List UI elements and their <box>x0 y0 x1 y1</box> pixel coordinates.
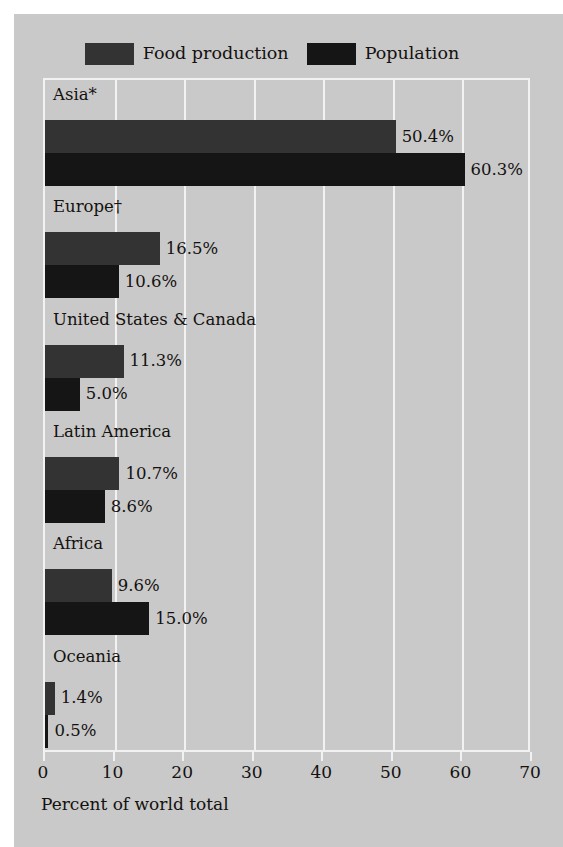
bar-value-label: 11.3% <box>124 353 182 370</box>
category-label: Oceania <box>53 649 121 666</box>
bar-row: 8.6% <box>45 490 528 523</box>
bar-population <box>45 265 119 298</box>
bar-group: Africa9.6%15.0% <box>45 536 528 648</box>
bar-row: 60.3% <box>45 153 528 186</box>
chart-figure: Food production Population Asia*50.4%60.… <box>0 0 563 847</box>
category-label: Europe† <box>53 199 122 216</box>
chart-panel: Food production Population Asia*50.4%60.… <box>14 14 563 847</box>
bar-value-label: 15.0% <box>149 611 207 628</box>
category-label: United States & Canada <box>53 312 256 329</box>
bar-food-production <box>45 345 124 378</box>
legend-item-food-production: Food production <box>85 43 289 65</box>
x-tick-label: 10 <box>102 764 124 781</box>
bar-row: 5.0% <box>45 378 528 411</box>
bar-value-label: 10.7% <box>119 465 177 482</box>
bar-group: Asia*50.4%60.3% <box>45 87 528 199</box>
bar-row: 1.4% <box>45 682 528 715</box>
x-tick <box>391 752 393 761</box>
x-tick <box>182 752 184 761</box>
bar-row: 16.5% <box>45 232 528 265</box>
bar-population <box>45 153 465 186</box>
bar-value-label: 9.6% <box>112 578 160 595</box>
bar-value-label: 60.3% <box>465 161 523 178</box>
bar-row: 0.5% <box>45 715 528 748</box>
bar-group: Latin America10.7%8.6% <box>45 424 528 536</box>
x-tick-label: 20 <box>171 764 193 781</box>
bar-food-production <box>45 120 396 153</box>
bar-group: Europe†16.5%10.6% <box>45 199 528 311</box>
legend-swatch-population <box>307 43 356 65</box>
bar-population <box>45 378 80 411</box>
bar-population <box>45 602 149 635</box>
bar-row: 10.6% <box>45 265 528 298</box>
legend-label-population: Population <box>365 45 460 63</box>
category-label: Asia* <box>53 87 97 104</box>
x-axis: 010203040506070 <box>43 752 530 792</box>
category-label: Africa <box>53 536 103 553</box>
x-tick <box>530 752 532 761</box>
x-axis-label: Percent of world total <box>41 796 229 813</box>
x-tick-label: 30 <box>241 764 263 781</box>
bar-value-label: 0.5% <box>48 723 96 740</box>
bar-row: 10.7% <box>45 457 528 490</box>
bar-food-production <box>45 569 112 602</box>
bar-value-label: 5.0% <box>80 386 128 403</box>
legend-label-food-production: Food production <box>143 45 289 63</box>
bar-value-label: 10.6% <box>119 274 177 291</box>
bar-row: 50.4% <box>45 120 528 153</box>
bar-population <box>45 490 105 523</box>
x-tick <box>43 752 45 761</box>
bar-group: United States & Canada11.3%5.0% <box>45 312 528 424</box>
bar-food-production <box>45 682 55 715</box>
bar-food-production <box>45 232 160 265</box>
x-tick <box>252 752 254 761</box>
bar-row: 15.0% <box>45 602 528 635</box>
x-tick <box>321 752 323 761</box>
x-tick <box>113 752 115 761</box>
x-tick-label: 0 <box>38 764 49 781</box>
x-tick-label: 60 <box>450 764 472 781</box>
bar-value-label: 8.6% <box>105 498 153 515</box>
legend-item-population: Population <box>307 43 460 65</box>
plot-area: Asia*50.4%60.3%Europe†16.5%10.6%United S… <box>43 78 530 752</box>
category-label: Latin America <box>53 424 171 441</box>
x-tick <box>460 752 462 761</box>
legend-swatch-food-production <box>85 43 134 65</box>
bar-group: Oceania1.4%0.5% <box>45 649 528 761</box>
bar-value-label: 50.4% <box>396 128 454 145</box>
chart-legend: Food production Population <box>14 40 530 68</box>
x-tick-label: 70 <box>519 764 541 781</box>
bar-row: 9.6% <box>45 569 528 602</box>
x-tick-label: 40 <box>310 764 332 781</box>
bar-food-production <box>45 457 119 490</box>
bar-value-label: 16.5% <box>160 241 218 258</box>
bar-row: 11.3% <box>45 345 528 378</box>
bar-value-label: 1.4% <box>55 690 103 707</box>
x-tick-label: 50 <box>380 764 402 781</box>
